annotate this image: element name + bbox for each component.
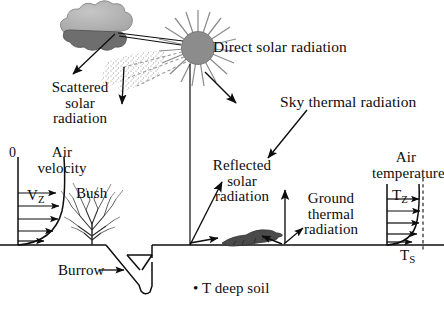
label-air-temperature: Air temperature — [372, 150, 440, 181]
label-velocity-origin: 0 — [9, 146, 16, 161]
label-ground-thermal-radiation: Ground thermal radiation — [290, 191, 372, 238]
ts-base: T — [400, 247, 409, 263]
cloud-sun-rays — [118, 33, 183, 45]
label-direct-solar-radiation: Direct solar radiation — [213, 39, 347, 55]
direct-solar-arrow — [205, 72, 236, 103]
label-scattered-solar-radiation: Scattered solar radiation — [22, 80, 138, 127]
sky-thermal-arrow — [268, 110, 307, 158]
label-tz-symbol: TZ — [392, 188, 408, 205]
label-ts-symbol: TS — [400, 248, 415, 265]
vz-subscript: Z — [38, 193, 45, 205]
label-t-deep-soil: • T deep soil — [193, 281, 269, 297]
label-vz-symbol: VZ — [27, 188, 45, 205]
label-air-velocity: Air velocity — [24, 145, 100, 176]
thermal-environment-diagram: Direct solar radiation Scattered solar r… — [0, 0, 444, 319]
lizard-symbol — [222, 230, 283, 246]
cloud-symbol — [60, 1, 132, 51]
tz-subscript: Z — [401, 193, 408, 205]
vz-base: V — [27, 187, 38, 203]
label-reflected-solar-radiation: Reflected solar radiation — [196, 158, 288, 205]
label-burrow: Burrow — [58, 263, 104, 279]
ts-subscript: S — [409, 253, 415, 265]
label-bush: Bush — [76, 186, 107, 202]
label-sky-thermal-radiation: Sky thermal radiation — [280, 94, 416, 110]
tz-base: T — [392, 187, 401, 203]
